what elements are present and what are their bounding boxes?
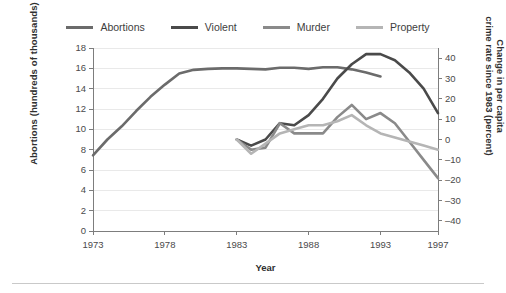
- x-axis-tick-label: 1978: [145, 239, 185, 250]
- y-axis-right-title-line2: crime rate since 1983 (percent): [484, 16, 495, 155]
- y-axis-right-tick-label: 30: [445, 73, 472, 84]
- y-axis-left-tick-label: 8: [59, 144, 86, 155]
- chart-tick-marks: [89, 48, 442, 235]
- y-axis-left-tick-label: 18: [59, 42, 86, 53]
- footer-divider: [12, 283, 484, 284]
- legend-label-violent: Violent: [205, 22, 237, 33]
- y-axis-right-title-line1: Change in per capita: [495, 39, 506, 132]
- legend-label-property: Property: [390, 22, 430, 33]
- y-axis-left-tick-label: 0: [59, 225, 86, 236]
- y-axis-right-tick-label: 20: [445, 93, 472, 104]
- y-axis-right-tick-label: –40: [445, 215, 472, 226]
- y-axis-left-tick-label: 10: [59, 123, 86, 134]
- x-axis-tick-label: 1973: [73, 239, 113, 250]
- y-axis-left-tick-label: 14: [59, 83, 86, 94]
- chart-legend: Abortions Violent Murder Property: [0, 18, 496, 36]
- legend-swatch-property: [356, 26, 383, 29]
- legend-item-murder: Murder: [263, 22, 330, 33]
- y-axis-left-tick-label: 4: [59, 184, 86, 195]
- legend-item-property: Property: [356, 22, 430, 33]
- legend-swatch-violent: [171, 26, 198, 29]
- y-axis-left-tick-label: 6: [59, 164, 86, 175]
- y-axis-right-title: Change in per capita crime rate since 19…: [484, 0, 506, 181]
- legend-swatch-murder: [263, 26, 290, 29]
- y-axis-left-tick-label: 12: [59, 103, 86, 114]
- y-axis-right-tick-label: –10: [445, 154, 472, 165]
- y-axis-right-tick-label: –20: [445, 174, 472, 185]
- chart-series-lines: [93, 54, 438, 178]
- x-axis-tick-label: 1993: [361, 239, 401, 250]
- y-axis-right-tick-label: 10: [445, 113, 472, 124]
- legend-label-murder: Murder: [297, 22, 330, 33]
- x-axis-tick-label: 1983: [217, 239, 257, 250]
- legend-item-abortions: Abortions: [66, 22, 144, 33]
- legend-item-violent: Violent: [171, 22, 237, 33]
- x-axis-tick-label: 1997: [418, 239, 458, 250]
- y-axis-right-tick-label: –30: [445, 195, 472, 206]
- y-axis-right-tick-label: 40: [445, 52, 472, 63]
- y-axis-left-title: Abortions (hundreds of thousands): [28, 0, 39, 179]
- legend-swatch-abortions: [66, 26, 93, 29]
- y-axis-left-tick-label: 16: [59, 62, 86, 73]
- y-axis-left-tick-label: 2: [59, 205, 86, 216]
- x-axis-tick-label: 1988: [289, 239, 329, 250]
- y-axis-right-tick-label: 0: [445, 134, 472, 145]
- legend-label-abortions: Abortions: [100, 22, 144, 33]
- x-axis-title: Year: [93, 262, 438, 273]
- series-line-property: [237, 115, 438, 154]
